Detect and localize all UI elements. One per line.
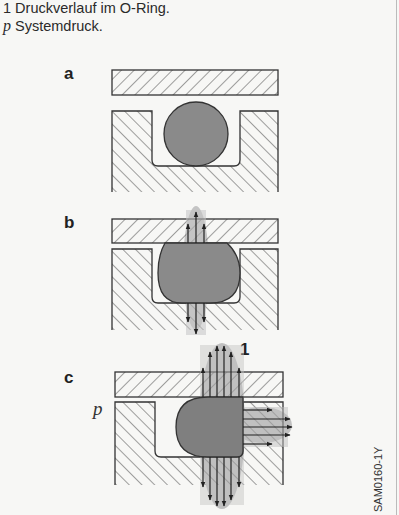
panel-c-drawing [115, 343, 292, 509]
oring-deformed [176, 397, 243, 457]
oring-compressed [158, 243, 240, 303]
oring-diagram [0, 0, 399, 515]
housing-top-plate [115, 372, 283, 397]
panel-a-drawing [112, 70, 278, 192]
housing-top-plate [112, 70, 278, 95]
oring-round [164, 102, 228, 166]
panel-b-drawing [112, 206, 278, 335]
